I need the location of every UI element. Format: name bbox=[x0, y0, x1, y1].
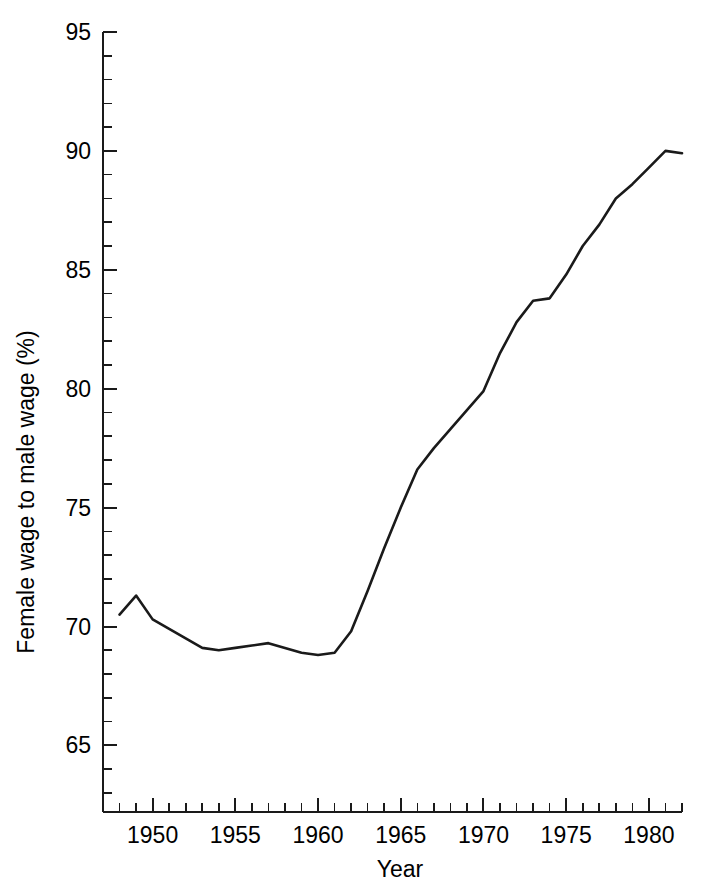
x-axis-tick-labels: 1950195519601965197019751980 bbox=[127, 822, 674, 848]
y-tick-label: 75 bbox=[65, 495, 91, 521]
y-tick-label: 95 bbox=[65, 19, 91, 45]
x-tick-label: 1960 bbox=[292, 822, 343, 848]
x-tick-label: 1970 bbox=[458, 822, 509, 848]
x-tick-label: 1955 bbox=[210, 822, 261, 848]
y-tick-label: 70 bbox=[65, 614, 91, 640]
x-tick-label: 1950 bbox=[127, 822, 178, 848]
y-axis-title: Female wage to male wage (%) bbox=[13, 330, 39, 653]
y-tick-label: 65 bbox=[65, 732, 91, 758]
y-tick-label: 90 bbox=[65, 138, 91, 164]
data-series-line bbox=[120, 151, 682, 655]
y-tick-label: 80 bbox=[65, 376, 91, 402]
y-axis-ticks bbox=[103, 32, 117, 793]
x-axis-title: Year bbox=[377, 856, 424, 882]
x-tick-label: 1980 bbox=[623, 822, 674, 848]
y-axis-tick-labels: 65707580859095 bbox=[65, 19, 91, 758]
x-tick-label: 1975 bbox=[541, 822, 592, 848]
chart-figure: Female wage to male wage (%) Year 657075… bbox=[0, 0, 710, 896]
x-axis-ticks bbox=[103, 798, 682, 812]
x-tick-label: 1965 bbox=[375, 822, 426, 848]
y-tick-label: 85 bbox=[65, 257, 91, 283]
line-chart: Female wage to male wage (%) Year 657075… bbox=[0, 0, 710, 896]
